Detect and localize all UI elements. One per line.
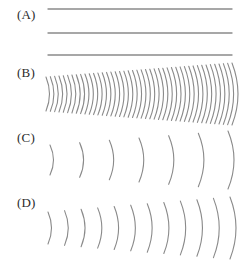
wavefront-arc xyxy=(94,73,98,114)
wavefront-arc xyxy=(81,74,85,113)
wavefront-arc xyxy=(219,64,225,124)
wavefront-arc xyxy=(109,140,113,179)
wavefront-arc xyxy=(147,204,152,252)
wavefront-arc xyxy=(89,74,93,115)
panel-b-canvas xyxy=(0,62,247,126)
panel-a-graphic xyxy=(0,0,247,62)
panel-a: (A) xyxy=(0,0,247,62)
wavefront-arc xyxy=(232,63,238,125)
panel-d-graphic xyxy=(0,192,247,262)
panel-a-canvas xyxy=(0,0,247,62)
wavefront-arc xyxy=(98,208,102,248)
wavefront-arc xyxy=(81,209,85,246)
wavefront-arc xyxy=(164,202,169,253)
wavefront-arc xyxy=(180,201,185,255)
wavefront-arc xyxy=(223,64,229,125)
wavefront-arc xyxy=(50,77,54,112)
panel-c: (C) xyxy=(0,126,247,192)
wavefront-arc xyxy=(50,145,54,175)
wavefront-arc xyxy=(55,76,59,111)
wavefront-figure: (A) (B) (C) (D) xyxy=(0,0,247,262)
panel-b-graphic xyxy=(0,62,247,126)
wavefront-arc xyxy=(115,72,119,116)
wavefront-arc xyxy=(228,131,234,189)
wavefront-arc xyxy=(169,136,174,185)
wavefront-arc xyxy=(120,71,124,116)
wavefront-arc xyxy=(107,72,111,115)
wavefront-arc xyxy=(230,197,236,259)
panel-c-graphic xyxy=(0,126,247,192)
wavefront-arc xyxy=(59,76,63,112)
wavefront-arc xyxy=(228,63,234,124)
panel-d: (D) xyxy=(0,192,247,262)
panel-c-canvas xyxy=(0,126,247,192)
wavefront-arc xyxy=(76,75,80,114)
wavefront-arc xyxy=(48,212,52,244)
wavefront-arc xyxy=(85,74,89,114)
wavefront-arc xyxy=(197,200,203,257)
wavefront-arc xyxy=(68,75,72,112)
wavefront-arc xyxy=(198,133,204,186)
panel-b: (B) xyxy=(0,62,247,126)
wavefront-arc xyxy=(46,77,50,111)
wavefront-arc xyxy=(139,138,144,182)
wavefront-arc xyxy=(72,75,76,113)
wavefront-arc xyxy=(102,73,106,115)
wavefront-arc xyxy=(213,198,219,257)
wavefront-arc xyxy=(131,205,136,251)
wavefront-arc xyxy=(98,73,102,115)
wavefront-arc xyxy=(65,211,69,246)
wavefront-arc xyxy=(114,207,118,250)
wavefront-arc xyxy=(63,76,67,113)
wavefront-arc xyxy=(111,72,115,116)
wavefront-arc xyxy=(80,143,84,178)
panel-d-canvas xyxy=(0,192,247,262)
